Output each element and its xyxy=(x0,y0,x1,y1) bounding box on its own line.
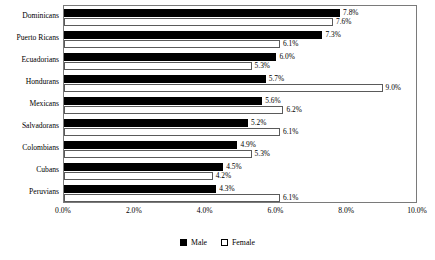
bar-female xyxy=(64,172,213,180)
bar-value-label: 7.6% xyxy=(336,18,351,26)
bar-value-label: 6.0% xyxy=(279,53,294,61)
bar-value-label: 4.3% xyxy=(219,185,234,193)
bar-male xyxy=(64,119,248,127)
x-axis-tick-label: 2.0% xyxy=(126,206,142,215)
x-axis-tick-label: 10.0% xyxy=(407,206,427,215)
legend-label: Female xyxy=(232,238,255,247)
x-axis-tick-label: 0.0% xyxy=(55,206,71,215)
bar-value-label: 7.3% xyxy=(325,31,340,39)
bar-value-label: 4.2% xyxy=(216,172,231,180)
bar-value-label: 6.1% xyxy=(283,194,298,202)
bar-male xyxy=(64,31,322,39)
bar-value-label: 6.1% xyxy=(283,40,298,48)
category-axis-labels: DominicansPuerto RicansEcuadoriansHondur… xyxy=(0,5,62,203)
category-label: Ecuadorians xyxy=(0,56,59,64)
legend-swatch-male-icon xyxy=(180,239,187,246)
legend-item-male[interactable]: Male xyxy=(180,238,207,247)
bar-chart: DominicansPuerto RicansEcuadoriansHondur… xyxy=(0,0,435,260)
x-axis-tick-label: 4.0% xyxy=(197,206,213,215)
legend-swatch-female-icon xyxy=(221,239,228,246)
bar-value-label: 5.3% xyxy=(255,62,270,70)
bar-value-label: 6.1% xyxy=(283,128,298,136)
bar-group: 4.5%4.2% xyxy=(64,163,416,180)
category-label: Colombians xyxy=(0,144,59,152)
bar-female xyxy=(64,128,280,136)
bar-value-label: 4.9% xyxy=(240,141,255,149)
bar-value-label: 5.2% xyxy=(251,119,266,127)
bar-male xyxy=(64,97,262,105)
category-label: Puerto Ricans xyxy=(0,34,59,42)
plot-area: 7.8%7.6%7.3%6.1%6.0%5.3%5.7%9.0%5.6%6.2%… xyxy=(63,5,417,203)
x-axis-tick-label: 6.0% xyxy=(267,206,283,215)
legend-label: Male xyxy=(191,238,207,247)
bar-group: 5.7%9.0% xyxy=(64,75,416,92)
bar-male xyxy=(64,141,237,149)
bar-group: 6.0%5.3% xyxy=(64,53,416,70)
legend-item-female[interactable]: Female xyxy=(221,238,255,247)
category-label: Peruvians xyxy=(0,188,59,196)
category-label: Cubans xyxy=(0,166,59,174)
x-axis: 0.0%2.0%4.0%6.0%8.0%10.0% xyxy=(63,203,417,221)
bar-male xyxy=(64,163,223,171)
chart-legend: MaleFemale xyxy=(0,234,435,250)
bar-female xyxy=(64,150,252,158)
bar-female xyxy=(64,194,280,202)
category-label: Dominicans xyxy=(0,12,59,20)
bar-value-label: 4.5% xyxy=(226,163,241,171)
bar-group: 4.3%6.1% xyxy=(64,185,416,202)
bar-male xyxy=(64,53,276,61)
bar-female xyxy=(64,40,280,48)
bar-group: 5.2%6.1% xyxy=(64,119,416,136)
bar-value-label: 7.8% xyxy=(343,9,358,17)
bar-value-label: 6.2% xyxy=(286,106,301,114)
bar-group: 5.6%6.2% xyxy=(64,97,416,114)
bar-group: 7.3%6.1% xyxy=(64,31,416,48)
bar-male xyxy=(64,185,216,193)
category-label: Salvadorans xyxy=(0,122,59,130)
bar-male xyxy=(64,9,340,17)
category-label: Hondurans xyxy=(0,78,59,86)
x-axis-tick-label: 8.0% xyxy=(338,206,354,215)
bar-female xyxy=(64,106,283,114)
bar-value-label: 5.6% xyxy=(265,97,280,105)
bar-male xyxy=(64,75,266,83)
bar-female xyxy=(64,62,252,70)
bar-group: 7.8%7.6% xyxy=(64,9,416,26)
category-label: Mexicans xyxy=(0,100,59,108)
bar-value-label: 5.7% xyxy=(269,75,284,83)
bar-group: 4.9%5.3% xyxy=(64,141,416,158)
bar-value-label: 5.3% xyxy=(255,150,270,158)
bar-female xyxy=(64,18,333,26)
bar-value-label: 9.0% xyxy=(386,84,401,92)
bar-female xyxy=(64,84,383,92)
